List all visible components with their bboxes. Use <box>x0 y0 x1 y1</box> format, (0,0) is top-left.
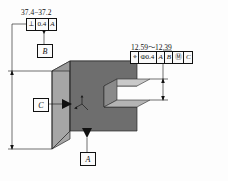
position-feature-control-frame[interactable]: ⌖ Φ0.4 A B Ⓜ C <box>130 51 193 64</box>
position-datum-c: C <box>184 52 192 63</box>
perpendicularity-symbol: ⟂ <box>27 19 36 30</box>
overall-height-dimension-text: 37.4−37.2 <box>21 8 51 17</box>
datum-b-leader <box>41 29 46 44</box>
perpendicularity-feature-control-frame[interactable]: ⟂ 0.4 A <box>26 18 57 31</box>
drawing-canvas: 37.4−37.2 ⟂ 0.4 A B 12.59～12.39 ⌖ Φ0.4 A… <box>0 0 228 181</box>
position-symbol: ⌖ <box>131 52 139 63</box>
datum-feature-a-box[interactable]: A <box>80 152 96 166</box>
block-front-face <box>70 61 137 131</box>
perpendicularity-datum-a: A <box>49 19 56 30</box>
height-dimension-lines <box>8 24 52 150</box>
position-datum-a: A <box>157 52 165 63</box>
mmc-modifier-icon: Ⓜ <box>173 52 184 63</box>
perpendicularity-tolerance-value: 0.4 <box>36 19 49 30</box>
position-tolerance-value: Φ0.4 <box>139 52 157 63</box>
datum-feature-c-box[interactable]: C <box>33 98 49 112</box>
datum-feature-b-box[interactable]: B <box>37 44 53 58</box>
position-datum-b: B <box>165 52 173 63</box>
